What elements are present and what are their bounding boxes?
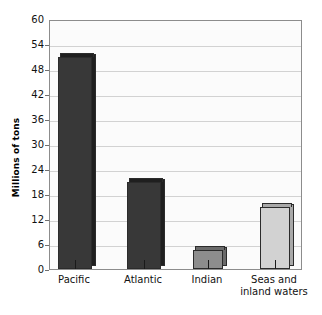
y-tick-label: 42 — [0, 90, 44, 100]
x-axis-labels: PacificAtlanticIndianSeas and inland wat… — [49, 274, 302, 314]
y-tick-label: 12 — [0, 215, 44, 225]
y-tick-label: 48 — [0, 65, 44, 75]
y-tick-label: 60 — [0, 15, 44, 25]
y-tick-mark — [45, 270, 49, 271]
y-tick-label: 24 — [0, 165, 44, 175]
y-tick-mark — [45, 195, 49, 196]
y-tick-label: 36 — [0, 115, 44, 125]
y-tick-mark — [45, 120, 49, 121]
bar-chart: Millions of tons 60544842363024181260 Pa… — [0, 0, 322, 315]
y-tick-mark — [45, 220, 49, 221]
y-axis-ticks: 60544842363024181260 — [0, 20, 322, 270]
y-tick-mark — [45, 245, 49, 246]
y-tick-label: 18 — [0, 190, 44, 200]
y-tick-label: 6 — [0, 240, 44, 250]
y-tick-mark — [45, 170, 49, 171]
y-tick-label: 30 — [0, 140, 44, 150]
y-tick-mark — [45, 145, 49, 146]
y-tick-mark — [45, 45, 49, 46]
y-tick-mark — [45, 95, 49, 96]
y-tick-label: 54 — [0, 40, 44, 50]
x-tick-label: Seas and inland waters — [231, 274, 317, 298]
y-tick-mark — [45, 70, 49, 71]
